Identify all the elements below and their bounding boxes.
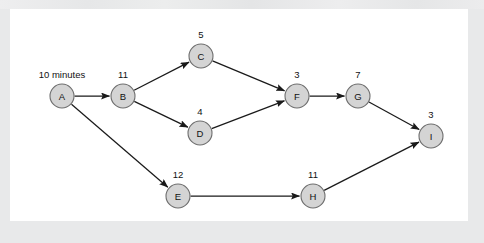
network-diagram: A10 minutesB11C5D4E12F3G7H11I3 <box>0 0 484 243</box>
node-weight-d: 4 <box>197 106 202 117</box>
node-weight-a: 10 minutes <box>39 69 86 80</box>
node-h[interactable]: H11 <box>301 169 325 208</box>
node-g[interactable]: G7 <box>346 69 370 108</box>
node-i[interactable]: I3 <box>419 109 443 148</box>
node-weight-b: 11 <box>118 69 128 80</box>
node-f[interactable]: F3 <box>285 69 309 108</box>
node-label-f: F <box>294 91 300 102</box>
edges-layer <box>71 61 419 196</box>
node-a[interactable]: A10 minutes <box>39 69 86 108</box>
edge-h-to-i <box>324 142 419 190</box>
diagram-screenshot: A10 minutesB11C5D4E12F3G7H11I3 <box>0 0 484 243</box>
node-e[interactable]: E12 <box>166 169 190 208</box>
node-weight-g: 7 <box>355 69 360 80</box>
node-label-e: E <box>175 191 181 202</box>
edge-a-to-e <box>71 104 167 187</box>
node-label-c: C <box>198 51 205 62</box>
edge-c-to-f <box>213 61 285 91</box>
edge-b-to-d <box>134 101 188 127</box>
node-label-a: A <box>59 91 66 102</box>
node-weight-e: 12 <box>173 169 184 180</box>
edge-d-to-f <box>212 101 285 129</box>
node-weight-c: 5 <box>198 29 203 40</box>
node-weight-f: 3 <box>294 69 299 80</box>
nodes-layer: A10 minutesB11C5D4E12F3G7H11I3 <box>39 29 443 208</box>
node-weight-h: 11 <box>308 169 318 180</box>
node-label-i: I <box>430 131 433 142</box>
node-weight-i: 3 <box>428 109 433 120</box>
node-d[interactable]: D4 <box>188 106 212 145</box>
node-label-b: B <box>120 91 126 102</box>
node-b[interactable]: B11 <box>111 69 135 108</box>
node-label-g: G <box>354 91 361 102</box>
node-c[interactable]: C5 <box>189 29 213 68</box>
node-label-h: H <box>310 191 317 202</box>
edge-b-to-c <box>134 62 189 90</box>
node-label-d: D <box>197 128 204 139</box>
edge-g-to-i <box>369 102 419 130</box>
